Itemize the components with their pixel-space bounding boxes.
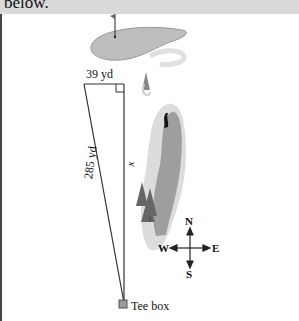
tree-icon xyxy=(142,72,150,95)
fairway xyxy=(141,104,186,251)
compass-south: S xyxy=(186,268,192,280)
putting-green xyxy=(91,27,187,64)
distance-triangle xyxy=(84,84,124,303)
tee-box-label: Tee box xyxy=(131,299,169,314)
golf-hole-diagram xyxy=(0,0,299,321)
compass-north: N xyxy=(185,215,193,227)
compass-west: W xyxy=(158,242,169,254)
top-distance-label: 39 yd xyxy=(86,67,113,82)
compass-east: E xyxy=(212,242,219,254)
compass-icon xyxy=(170,228,210,268)
tee-box-icon xyxy=(119,300,127,308)
unknown-side-label: x xyxy=(124,162,136,167)
